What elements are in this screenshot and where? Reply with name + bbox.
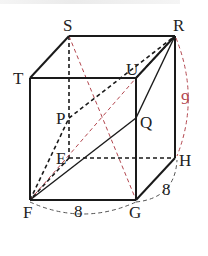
label-R: R — [173, 16, 185, 35]
label-U: U — [126, 60, 138, 79]
label-E: E — [56, 149, 66, 168]
visible-edges — [30, 36, 175, 200]
label-G: G — [129, 203, 141, 222]
dim-FG: 8 — [74, 202, 83, 221]
arc-GH — [136, 160, 177, 202]
edge-UR — [136, 36, 175, 78]
label-H: H — [179, 151, 191, 170]
label-Q: Q — [140, 113, 152, 132]
arc-FG — [30, 202, 136, 214]
label-S: S — [63, 16, 72, 35]
dim-RH: 9 — [181, 89, 190, 108]
label-F: F — [23, 203, 32, 222]
dim-GH: 8 — [162, 180, 171, 199]
label-T: T — [13, 69, 24, 88]
edge-TS — [30, 36, 69, 78]
segment-FQ — [30, 118, 136, 200]
label-P: P — [56, 109, 65, 128]
cube-diagram: S R T U P Q E H F G 8 8 9 — [0, 0, 208, 256]
segment-QR — [136, 36, 175, 118]
diagonal-FU — [30, 78, 136, 200]
